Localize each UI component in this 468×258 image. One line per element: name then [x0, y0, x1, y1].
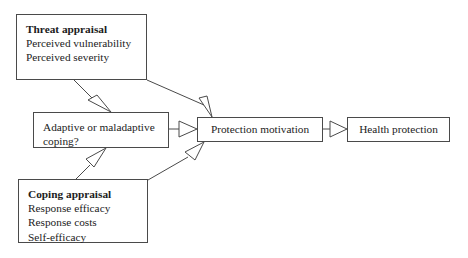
coping-appraisal-heading: Coping appraisal: [28, 187, 147, 201]
coping-appraisal-item-2: Self-efficacy: [28, 230, 147, 244]
coping-appraisal-item-0: Response efficacy: [28, 201, 147, 215]
edge-threat-to-adaptive: [74, 80, 111, 112]
threat-appraisal-item-1: Perceived severity: [26, 50, 146, 64]
edge-coping-to-adaptive: [76, 148, 106, 179]
edge-protection-to-health: [323, 121, 347, 137]
node-threat-appraisal: Threat appraisal Perceived vulnerability…: [16, 14, 147, 80]
protection-motivation-label: Protection motivation: [211, 122, 309, 136]
adaptive-coping-line-2: coping?: [43, 134, 168, 148]
adaptive-coping-line-1: Adaptive or maladaptive: [43, 120, 168, 134]
node-health-protection: Health protection: [347, 117, 450, 142]
threat-appraisal-heading: Threat appraisal: [26, 22, 146, 36]
edge-adaptive-to-protection: [169, 121, 197, 137]
threat-appraisal-item-0: Perceived vulnerability: [26, 36, 146, 50]
node-coping-appraisal: Coping appraisal Response efficacy Respo…: [18, 179, 148, 243]
coping-appraisal-item-1: Response costs: [28, 215, 147, 229]
node-adaptive-coping: Adaptive or maladaptive coping?: [33, 112, 169, 148]
health-protection-label: Health protection: [359, 122, 438, 136]
node-protection-motivation: Protection motivation: [197, 117, 323, 142]
protection-motivation-diagram: Threat appraisal Perceived vulnerability…: [0, 0, 468, 258]
